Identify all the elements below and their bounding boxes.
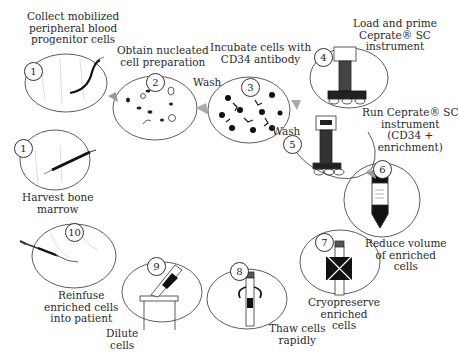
step-1-pb-label: Collect mobilized peripheral blood proge… [27,11,119,46]
label-line: cell preparation [117,57,209,69]
label-line: Thaw cells [269,323,326,335]
step-number-badge: 8 [230,262,249,281]
step-9-label: Dilute cells [106,328,138,351]
step-number-badge: 6 [373,160,392,179]
syringe-icon [20,130,96,190]
step-number-badge: 7 [315,233,334,252]
step-4-label: Load and prime Ceprate® SC instrument [353,18,437,53]
label-line: progenitor cells [27,34,119,46]
step-number-badge: 2 [146,73,165,92]
label-line: Obtain nucleated [117,45,209,57]
label-line: into patient [44,313,118,325]
step-6-label: Reduce volume of enriched cells [365,238,447,273]
label-line: instrument [353,41,437,53]
label-line: Harvest bone [22,192,94,204]
step-number-badge: 1 [14,139,33,158]
label-line: Cryopreserve [308,297,380,309]
step-number-badge: 10 [65,223,84,242]
label-line: Reduce volume [365,238,447,250]
step-1-bm-label: Harvest bone marrow [22,192,94,215]
label-line: Incubate cells with [210,42,311,54]
label-line: Run Ceprate® SC [362,107,459,119]
step-2-label: Obtain nucleated cell preparation [117,45,209,68]
label-line: (CD34 + [362,130,459,142]
step-number-badge: 4 [314,48,333,67]
label-line: CD34 antibody [210,54,311,66]
wash-label: Wash [193,76,221,88]
step-3-label: Incubate cells with CD34 antibody [210,42,311,65]
step-number-badge: 1 [24,62,43,81]
label-line: Reinfuse [44,290,118,302]
step-8-label: Thaw cells rapidly [269,323,326,346]
label-line: cells [106,340,138,352]
step-number-badge: 9 [147,257,166,276]
label-line: enrichment) [362,142,459,154]
label-line: cells [365,261,447,273]
label-line: Dilute [106,328,138,340]
label-line: marrow [22,204,94,216]
step-number-badge: 5 [283,135,302,154]
label-line: Collect mobilized [27,11,119,23]
label-line: Load and prime [353,18,437,30]
step-number-badge: 3 [241,78,260,97]
wash-label: Wash [272,125,300,137]
step-10-label: Reinfuse enriched cells into patient [44,290,118,325]
thaw-vial-icon [207,269,287,329]
label-line: rapidly [269,335,326,347]
step-5-label: Run Ceprate® SC instrument (CD34 + enric… [362,107,459,153]
